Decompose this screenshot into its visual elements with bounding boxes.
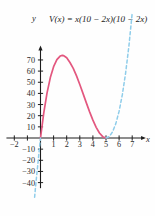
x-tick-label: 3 <box>78 140 82 149</box>
y-tick-label: 30 <box>27 101 35 110</box>
y-tick-label: −30 <box>22 167 35 176</box>
y-tick-label: −40 <box>22 179 35 188</box>
x-tick-label: 7 <box>130 140 134 149</box>
y-tick-label: 60 <box>27 67 35 76</box>
y-tick-label: 20 <box>27 112 35 121</box>
y-axis-label: y <box>31 13 36 23</box>
curve-solid <box>41 55 107 138</box>
chart-canvas: V(x) = x(10 − 2x)(10 − 2x) −40−30−20−101… <box>0 0 155 216</box>
x-tick-label: −2 <box>10 140 19 149</box>
curve-layer <box>35 13 133 197</box>
y-tick-label: 70 <box>27 56 35 65</box>
y-tick-label: −10 <box>22 145 35 154</box>
x-axis-label: x <box>145 134 150 144</box>
chart-figure: V(x) = x(10 − 2x)(10 − 2x) −40−30−20−101… <box>0 0 155 216</box>
y-tick-label: 50 <box>27 78 35 87</box>
x-tick-label: 6 <box>117 140 121 149</box>
y-tick-label: 10 <box>27 123 35 132</box>
y-axis-arrow <box>38 46 42 51</box>
curve-dashed <box>106 13 132 138</box>
x-tick-label: 1 <box>52 140 56 149</box>
x-tick-label: 2 <box>65 140 69 149</box>
y-tick-label: 40 <box>27 89 35 98</box>
y-tick-label: −20 <box>22 156 35 165</box>
curve-dashed <box>35 138 41 197</box>
x-tick-label: 4 <box>91 140 95 149</box>
x-tick-label: 5 <box>104 140 108 149</box>
